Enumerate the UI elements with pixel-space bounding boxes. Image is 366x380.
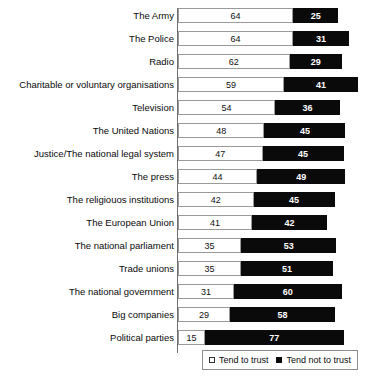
category-label: The religiouos institutions [67,192,174,207]
stacked-bar: 29 58 [178,307,335,322]
stacked-bar: 47 45 [178,146,344,161]
stacked-bar: 62 29 [178,54,342,69]
bar-segment-tend-to-trust: 29 [178,307,230,322]
filled-square-icon [276,357,282,363]
chart-row: Charitable or voluntary organisations 59… [0,77,366,100]
category-label: Political parties [110,330,174,345]
bar-segment-tend-not-to-trust: 45 [254,192,335,207]
stacked-bar: 64 31 [178,31,349,46]
chart-row: The press 44 49 [0,169,366,192]
category-label: Radio [149,54,174,69]
bar-segment-tend-to-trust: 15 [178,330,205,345]
category-label: The national parliament [75,238,174,253]
legend-item-tend-not-to-trust: Tend not to trust [276,356,351,365]
bar-segment-tend-not-to-trust: 45 [263,146,344,161]
bar-segment-tend-not-to-trust: 45 [264,123,345,138]
bar-segment-tend-to-trust: 62 [178,54,290,69]
bar-segment-tend-not-to-trust: 53 [241,238,336,253]
category-label: The United Nations [93,123,174,138]
stacked-bar: 15 77 [178,330,344,345]
bar-segment-tend-to-trust: 42 [178,192,254,207]
bar-segment-tend-not-to-trust: 41 [284,77,358,92]
chart-rows: The Army 64 25 The Police 64 31 Radio 62… [0,8,366,353]
category-label: The Police [129,31,174,46]
bar-segment-tend-not-to-trust: 51 [241,261,333,276]
open-square-icon [209,357,215,363]
bar-segment-tend-not-to-trust: 31 [293,31,349,46]
chart-row: The national government 31 60 [0,284,366,307]
bar-segment-tend-to-trust: 44 [178,169,257,184]
chart-row: The European Union 41 42 [0,215,366,238]
bar-segment-tend-not-to-trust: 36 [275,100,340,115]
bar-segment-tend-not-to-trust: 60 [234,284,342,299]
legend-label: Tend not to trust [286,356,351,365]
stacked-bar: 44 49 [178,169,345,184]
bar-segment-tend-to-trust: 31 [178,284,234,299]
stacked-bar: 48 45 [178,123,345,138]
bar-segment-tend-not-to-trust: 42 [252,215,328,230]
stacked-bar: 31 60 [178,284,342,299]
legend-item-tend-to-trust: Tend to trust [209,356,269,365]
category-label: The press [132,169,174,184]
bar-segment-tend-not-to-trust: 29 [290,54,342,69]
bar-segment-tend-to-trust: 64 [178,31,293,46]
stacked-bar: 64 25 [178,8,338,23]
bar-segment-tend-not-to-trust: 77 [205,330,344,345]
bar-segment-tend-to-trust: 54 [178,100,275,115]
category-label: The Army [133,8,174,23]
category-label: The national government [69,284,174,299]
bar-segment-tend-to-trust: 64 [178,8,293,23]
category-label: Big companies [112,307,174,322]
chart-row: The Police 64 31 [0,31,366,54]
chart-row: The Army 64 25 [0,8,366,31]
legend-label: Tend to trust [219,356,269,365]
stacked-bar: 35 51 [178,261,333,276]
category-label: Trade unions [119,261,174,276]
category-label: Charitable or voluntary organisations [19,77,174,92]
chart-legend: Tend to trust Tend not to trust [202,350,358,370]
bar-segment-tend-to-trust: 47 [178,146,263,161]
bar-segment-tend-to-trust: 35 [178,238,241,253]
chart-row: Justice/The national legal system 47 45 [0,146,366,169]
category-label: Television [132,100,174,115]
category-label: The European Union [86,215,174,230]
stacked-bar: 35 53 [178,238,336,253]
chart-row: Television 54 36 [0,100,366,123]
chart-row: The religiouos institutions 42 45 [0,192,366,215]
chart-row: Trade unions 35 51 [0,261,366,284]
bar-segment-tend-to-trust: 48 [178,123,264,138]
chart-row: Radio 62 29 [0,54,366,77]
chart-row: Big companies 29 58 [0,307,366,330]
bar-segment-tend-not-to-trust: 49 [257,169,345,184]
stacked-bar: 54 36 [178,100,340,115]
chart-row: The United Nations 48 45 [0,123,366,146]
stacked-bar-chart: The Army 64 25 The Police 64 31 Radio 62… [0,0,366,380]
bar-segment-tend-to-trust: 35 [178,261,241,276]
stacked-bar: 41 42 [178,215,327,230]
stacked-bar: 42 45 [178,192,335,207]
chart-row: The national parliament 35 53 [0,238,366,261]
bar-segment-tend-to-trust: 41 [178,215,252,230]
bar-segment-tend-not-to-trust: 25 [293,8,338,23]
category-label: Justice/The national legal system [34,146,174,161]
stacked-bar: 59 41 [178,77,358,92]
bar-segment-tend-to-trust: 59 [178,77,284,92]
bar-segment-tend-not-to-trust: 58 [230,307,334,322]
